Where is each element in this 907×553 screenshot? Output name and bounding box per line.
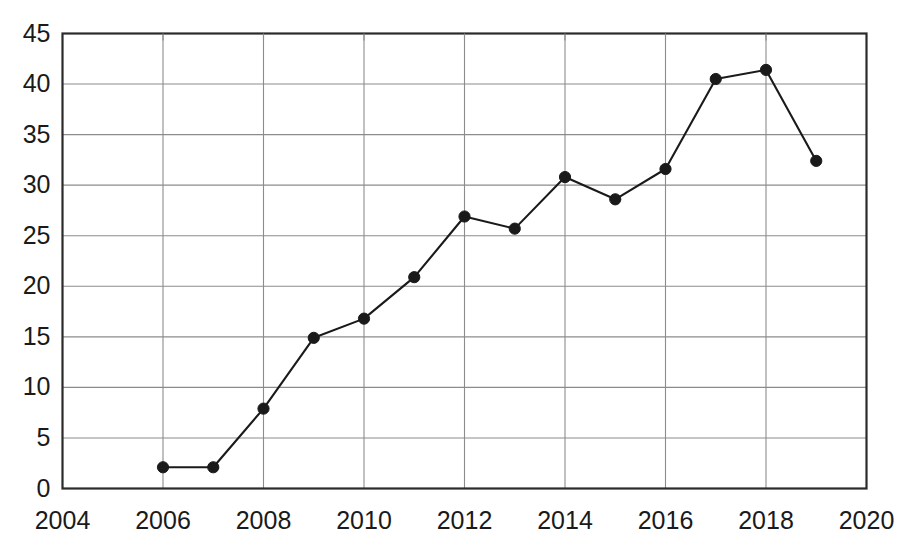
- data-point: [258, 403, 269, 414]
- data-point: [760, 64, 771, 75]
- y-tick-label: 40: [23, 71, 51, 96]
- data-point: [409, 272, 420, 283]
- x-tick-label: 2008: [224, 508, 304, 533]
- data-point: [710, 73, 721, 84]
- x-tick-label: 2010: [324, 508, 404, 533]
- data-point-markers: [157, 64, 821, 473]
- data-point: [358, 313, 369, 324]
- data-point: [459, 211, 470, 222]
- y-tick-label: 35: [23, 122, 51, 147]
- x-tick-label: 2006: [123, 508, 203, 533]
- plot-area: [0, 0, 907, 553]
- data-point: [559, 171, 570, 182]
- y-tick-label: 30: [23, 172, 51, 197]
- data-point: [308, 332, 319, 343]
- y-tick-label: 20: [23, 273, 51, 298]
- data-point: [610, 194, 621, 205]
- x-tick-label: 2016: [626, 508, 706, 533]
- y-tick-label: 45: [23, 21, 51, 46]
- x-tick-label: 2012: [425, 508, 505, 533]
- data-point: [208, 462, 219, 473]
- data-point: [509, 223, 520, 234]
- y-tick-label: 15: [23, 324, 51, 349]
- x-tick-label: 2018: [726, 508, 806, 533]
- data-point: [157, 462, 168, 473]
- line-chart: 051015202530354045 200420062008201020122…: [0, 0, 907, 553]
- x-tick-label: 2020: [827, 508, 907, 533]
- gridlines: [63, 34, 867, 489]
- y-tick-label: 10: [23, 374, 51, 399]
- x-tick-label: 2004: [23, 508, 103, 533]
- data-point: [811, 155, 822, 166]
- y-tick-label: 0: [37, 476, 51, 501]
- x-tick-label: 2014: [525, 508, 605, 533]
- y-tick-label: 25: [23, 223, 51, 248]
- data-point: [660, 163, 671, 174]
- y-tick-label: 5: [37, 425, 51, 450]
